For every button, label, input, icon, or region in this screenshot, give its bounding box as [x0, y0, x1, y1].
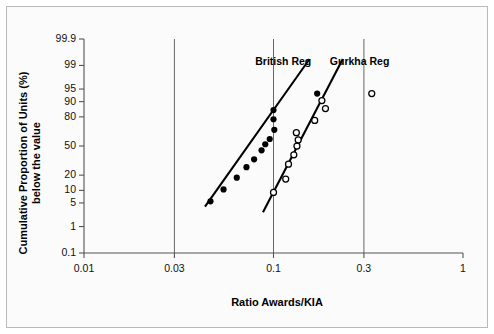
y-tick-label: 50: [20, 139, 76, 151]
y-tick-label: 0.1: [20, 246, 76, 258]
data-point-open: [322, 106, 328, 112]
x-tick-label: 0.03: [144, 262, 204, 274]
x-axis-title: Ratio Awards/KIA: [147, 296, 407, 308]
data-point-open: [291, 152, 297, 158]
data-point-filled: [243, 164, 249, 170]
data-point-filled: [234, 175, 240, 181]
y-tick-label: 99: [20, 58, 76, 70]
y-tick-label: 10: [20, 183, 76, 195]
data-point-filled: [251, 156, 257, 162]
data-point-open: [312, 117, 318, 123]
chart-canvas: [0, 0, 494, 334]
data-point-filled: [220, 186, 226, 192]
series-label-british-reg: British Reg: [255, 55, 311, 67]
data-point-filled: [270, 116, 276, 122]
data-point-open: [293, 130, 299, 136]
y-tick-label: 20: [20, 168, 76, 180]
y-tick-label: 80: [20, 110, 76, 122]
data-point-filled: [270, 107, 276, 113]
x-tick-label: 1: [433, 262, 493, 274]
series-label-gurkha-reg: Gurkha Reg: [330, 55, 390, 67]
x-tick-label: 0.01: [54, 262, 114, 274]
data-point-filled: [267, 136, 273, 142]
data-point-filled: [314, 90, 320, 96]
data-points-gurkha-reg: [271, 91, 375, 196]
data-point-filled: [271, 127, 277, 133]
y-tick-label: 5: [20, 196, 76, 208]
data-point-open: [319, 98, 325, 104]
data-point-filled: [262, 141, 268, 147]
data-point-open: [294, 143, 300, 149]
chart-figure: Cumulative Proportion of Units (%) below…: [0, 0, 494, 334]
data-points-british-reg: [207, 90, 320, 204]
x-tick-label: 0.1: [244, 262, 304, 274]
y-tick-label: 1: [20, 220, 76, 232]
data-point-open: [283, 176, 289, 182]
data-point-filled: [207, 198, 213, 204]
y-tick-label: 90: [20, 95, 76, 107]
data-point-open: [295, 137, 301, 143]
data-point-open: [369, 91, 375, 97]
x-tick-label: 0.3: [334, 262, 394, 274]
data-point-open: [286, 161, 292, 167]
data-point-open: [271, 189, 277, 195]
y-tick-label: 95: [20, 82, 76, 94]
data-point-filled: [258, 147, 264, 153]
y-tick-label: 99.9: [20, 32, 76, 44]
